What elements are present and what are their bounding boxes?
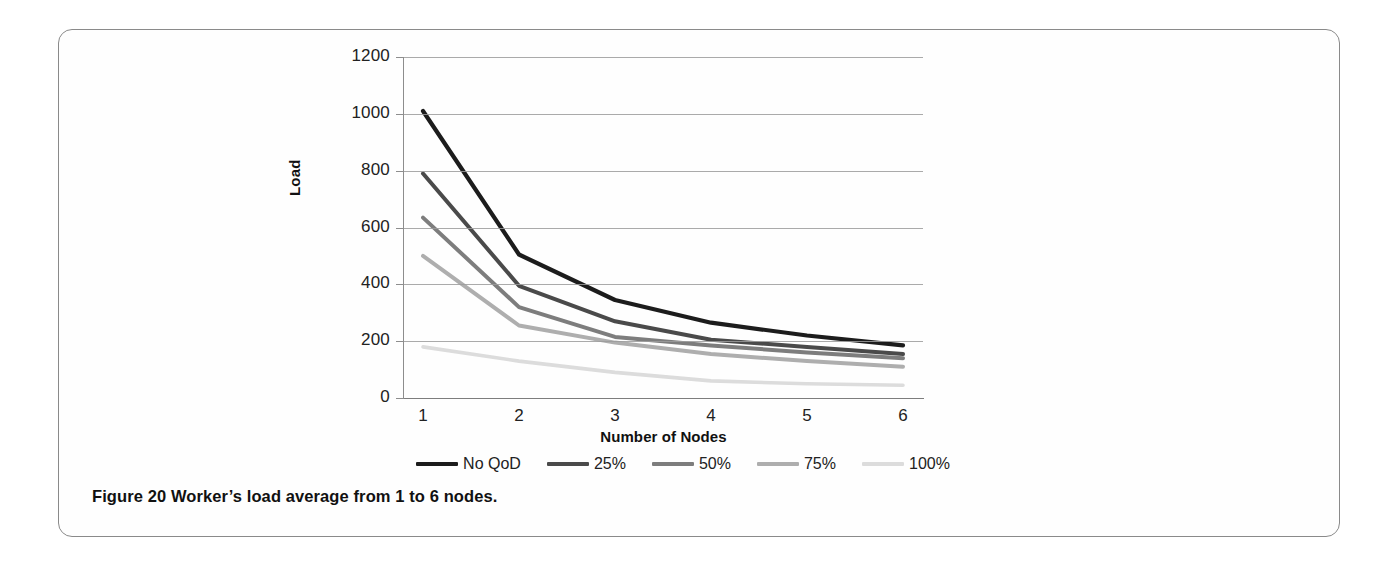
y-tick-label-1000: 1000 xyxy=(344,103,390,123)
gridline-1200 xyxy=(403,57,923,58)
chart-legend: No QoD25%50%75%100% xyxy=(403,455,963,473)
y-tick-label-800: 800 xyxy=(344,160,390,180)
series-line-25 xyxy=(423,174,903,355)
x-tick-label-2: 2 xyxy=(499,406,539,426)
y-tick-label-200: 200 xyxy=(344,330,390,350)
legend-label-100: 100% xyxy=(909,455,950,473)
legend-label-75: 75% xyxy=(804,455,836,473)
figure-caption: Figure 20 Worker’s load average from 1 t… xyxy=(92,487,497,506)
x-tick-label-5: 5 xyxy=(787,406,827,426)
x-tick-label-3: 3 xyxy=(595,406,635,426)
x-tick-label-4: 4 xyxy=(691,406,731,426)
y-tick-mark-1200 xyxy=(396,57,404,58)
legend-item-75[interactable]: 75% xyxy=(757,455,836,473)
y-tick-label-400: 400 xyxy=(344,273,390,293)
legend-swatch-75 xyxy=(757,462,799,466)
x-axis-title: Number of Nodes xyxy=(403,428,924,445)
gridline-600 xyxy=(403,228,923,229)
figure-caption-number: Figure 20 xyxy=(92,487,166,505)
legend-label-25: 25% xyxy=(594,455,626,473)
x-axis-line xyxy=(403,398,924,399)
x-tick-label-1: 1 xyxy=(403,406,443,426)
y-axis-title: Load xyxy=(286,159,303,196)
gridline-200 xyxy=(403,341,923,342)
y-tick-label-600: 600 xyxy=(344,217,390,237)
y-tick-mark-1000 xyxy=(396,114,404,115)
y-tick-mark-800 xyxy=(396,171,404,172)
y-tick-mark-200 xyxy=(396,341,404,342)
legend-swatch-50 xyxy=(652,462,694,466)
gridline-800 xyxy=(403,171,923,172)
figure-caption-text: Worker’s load average from 1 to 6 nodes. xyxy=(166,487,497,505)
legend-label-no-qod: No QoD xyxy=(463,455,521,473)
legend-item-50[interactable]: 50% xyxy=(652,455,731,473)
legend-item-100[interactable]: 100% xyxy=(862,455,950,473)
legend-label-50: 50% xyxy=(699,455,731,473)
plot-area xyxy=(403,57,923,398)
legend-swatch-100 xyxy=(862,462,904,465)
chart-figure: 020040060080010001200 123456 Load Number… xyxy=(0,0,1373,570)
y-tick-mark-400 xyxy=(396,284,404,285)
legend-item-25[interactable]: 25% xyxy=(547,455,626,473)
gridline-1000 xyxy=(403,114,923,115)
y-tick-mark-600 xyxy=(396,228,404,229)
gridline-400 xyxy=(403,284,923,285)
x-tick-label-6: 6 xyxy=(883,406,923,426)
legend-swatch-no-qod xyxy=(416,462,458,466)
y-tick-label-1200: 1200 xyxy=(344,46,390,66)
legend-item-no-qod[interactable]: No QoD xyxy=(416,455,521,473)
legend-swatch-25 xyxy=(547,462,589,466)
y-tick-mark-0 xyxy=(396,398,404,399)
y-tick-label-0: 0 xyxy=(344,387,390,407)
y-axis-tick-labels: 020040060080010001200 xyxy=(330,0,390,570)
